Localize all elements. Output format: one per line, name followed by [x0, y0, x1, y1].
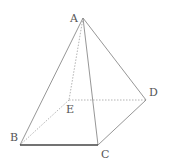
pyramid-diagram: A B C D E: [0, 0, 169, 165]
diagram-svg: A B C D E: [0, 0, 169, 165]
label-B: B: [10, 131, 18, 144]
edge-A-C: [83, 18, 98, 145]
edge-E-B: [20, 100, 69, 145]
edge-A-B: [20, 18, 83, 145]
label-A: A: [69, 12, 79, 25]
edge-A-D: [83, 18, 146, 100]
edge-C-D: [98, 100, 146, 145]
label-E: E: [66, 103, 74, 116]
edge-A-E: [69, 18, 83, 100]
label-D: D: [149, 86, 158, 99]
label-C: C: [101, 148, 109, 161]
